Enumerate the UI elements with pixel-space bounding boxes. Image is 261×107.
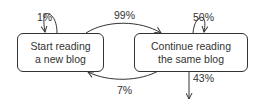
edge-label-1-percent: 1% (37, 12, 52, 23)
state-label-line: a new blog (35, 53, 86, 66)
state-diagram: Start reading a new blog Continue readin… (0, 0, 261, 107)
state-label-line: the same blog (158, 53, 224, 66)
edge-label-7-percent: 7% (117, 85, 132, 96)
state-continue-same-blog: Continue reading the same blog (134, 33, 248, 72)
edge-label-50-percent: 50% (193, 12, 214, 23)
edge-label-43-percent: 43% (193, 73, 214, 84)
edge-label-99-percent: 99% (114, 10, 135, 21)
state-start-new-blog: Start reading a new blog (17, 33, 104, 72)
state-label-line: Continue reading (151, 40, 231, 53)
edge-new-to-same (86, 23, 161, 33)
state-label-line: Start reading (30, 40, 90, 53)
